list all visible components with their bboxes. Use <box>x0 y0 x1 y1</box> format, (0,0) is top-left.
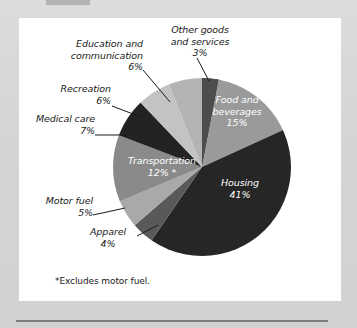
bottom-rule <box>16 320 328 322</box>
footnote-excludes-motor-fuel: *Excludes motor fuel. <box>55 276 150 286</box>
label-recreation: Recreation 6% <box>33 83 111 106</box>
label-housing: Housing 41% <box>206 177 274 200</box>
leader-line-motor-fuel <box>93 208 125 215</box>
label-motor-fuel: Motor fuel 5% <box>15 195 93 218</box>
pie-chart: Other goods and services 3% Education an… <box>19 18 341 301</box>
label-medical-care: Medical care 7% <box>17 113 95 136</box>
leader-line-other-goods <box>197 58 209 81</box>
label-education-and-communication: Education and communication 6% <box>39 38 143 73</box>
page-top-tab <box>46 0 90 5</box>
label-other-goods-and-services: Other goods and services 3% <box>159 24 241 59</box>
label-transportation: Transportation 12% * <box>118 155 206 178</box>
label-apparel: Apparel 4% <box>77 226 139 249</box>
label-food-and-beverages: Food and beverages 15% <box>201 94 273 129</box>
figure-card: Other goods and services 3% Education an… <box>19 18 341 301</box>
figure-page: Other goods and services 3% Education an… <box>0 0 357 328</box>
